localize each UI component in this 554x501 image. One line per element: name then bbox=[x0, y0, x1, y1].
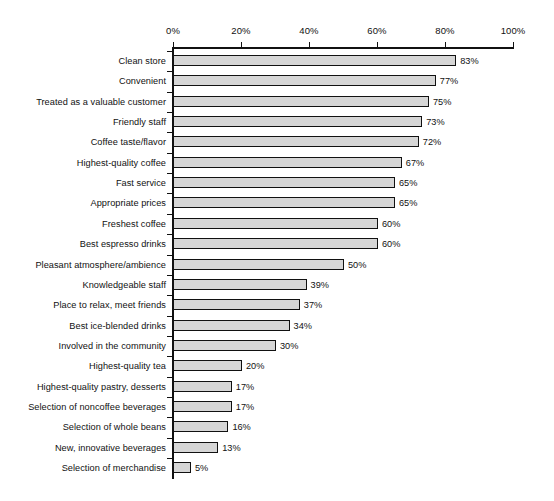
bar-category-label: Friendly staff bbox=[113, 116, 166, 128]
bar-row[interactable]: Selection of whole beans16% bbox=[0, 417, 554, 437]
bar-category-label: Treated as a valuable customer bbox=[36, 96, 166, 108]
y-axis-tick-mark bbox=[167, 295, 173, 296]
bar-category-label: Freshest coffee bbox=[102, 218, 166, 230]
bar-value-label: 17% bbox=[236, 401, 254, 413]
bar[interactable] bbox=[174, 157, 402, 168]
y-axis-tick-mark bbox=[167, 336, 173, 337]
bar-category-label: Fast service bbox=[116, 177, 166, 189]
y-axis-tick-mark bbox=[167, 132, 173, 133]
y-axis-tick-mark bbox=[167, 275, 173, 276]
bar-row[interactable]: Freshest coffee60% bbox=[0, 214, 554, 234]
y-axis-tick-mark bbox=[167, 255, 173, 256]
bar-value-label: 50% bbox=[348, 259, 366, 271]
y-axis-tick-mark bbox=[167, 51, 173, 52]
bar-row[interactable]: Clean store83% bbox=[0, 51, 554, 71]
bar-value-label: 72% bbox=[423, 136, 441, 148]
y-axis-tick-mark bbox=[167, 71, 173, 72]
bar-row[interactable]: Convenient77% bbox=[0, 71, 554, 91]
bar-category-label: Involved in the community bbox=[59, 340, 166, 352]
bar-row[interactable]: Friendly staff73% bbox=[0, 112, 554, 132]
bar[interactable] bbox=[174, 442, 218, 453]
bar-category-label: Coffee taste/flavor bbox=[91, 136, 166, 148]
bar[interactable] bbox=[174, 197, 395, 208]
bar-category-label: Convenient bbox=[119, 75, 166, 87]
bar-value-label: 83% bbox=[460, 55, 478, 67]
y-axis-tick-mark bbox=[167, 153, 173, 154]
bar[interactable] bbox=[174, 360, 242, 371]
bar[interactable] bbox=[174, 177, 395, 188]
bar[interactable] bbox=[174, 238, 378, 249]
bar-value-label: 16% bbox=[232, 421, 250, 433]
y-axis-tick-mark bbox=[167, 92, 173, 93]
bar-value-label: 5% bbox=[195, 462, 208, 474]
bar-row[interactable]: Knowledgeable staff39% bbox=[0, 275, 554, 295]
bar-value-label: 37% bbox=[304, 299, 322, 311]
bar[interactable] bbox=[174, 299, 300, 310]
bar[interactable] bbox=[174, 401, 232, 412]
bar[interactable] bbox=[174, 75, 436, 86]
bar-value-label: 20% bbox=[246, 360, 264, 372]
bar-row[interactable]: Treated as a valuable customer75% bbox=[0, 92, 554, 112]
bar-value-label: 75% bbox=[433, 96, 451, 108]
y-axis-tick-mark bbox=[167, 193, 173, 194]
bar[interactable] bbox=[174, 96, 429, 107]
bar-row[interactable]: Best espresso drinks60% bbox=[0, 234, 554, 254]
bar[interactable] bbox=[174, 259, 344, 270]
bar-row[interactable]: New, innovative beverages13% bbox=[0, 438, 554, 458]
bar-row[interactable]: Place to relax, meet friends37% bbox=[0, 295, 554, 315]
y-axis-tick-mark bbox=[167, 417, 173, 418]
bar-category-label: Pleasant atmosphere/ambience bbox=[35, 259, 166, 271]
y-axis-tick-mark bbox=[167, 397, 173, 398]
bar-value-label: 67% bbox=[406, 157, 424, 169]
bar[interactable] bbox=[174, 279, 307, 290]
bar-row[interactable]: Selection of merchandise5% bbox=[0, 458, 554, 478]
bar[interactable] bbox=[174, 421, 228, 432]
bar-row[interactable]: Coffee taste/flavor72% bbox=[0, 132, 554, 152]
bar-row[interactable]: Best ice-blended drinks34% bbox=[0, 316, 554, 336]
bar[interactable] bbox=[174, 136, 419, 147]
y-axis-tick-mark bbox=[167, 377, 173, 378]
bar-category-label: Selection of whole beans bbox=[63, 421, 166, 433]
y-axis-tick-mark bbox=[167, 234, 173, 235]
bar-value-label: 39% bbox=[311, 279, 329, 291]
bar-category-label: Best espresso drinks bbox=[80, 238, 166, 250]
bar-row[interactable]: Selection of noncoffee beverages17% bbox=[0, 397, 554, 417]
bar-row[interactable]: Highest-quality coffee67% bbox=[0, 153, 554, 173]
bar-category-label: Appropriate prices bbox=[91, 197, 166, 209]
bar-value-label: 73% bbox=[426, 116, 444, 128]
bar-value-label: 65% bbox=[399, 177, 417, 189]
y-axis-tick-mark bbox=[167, 316, 173, 317]
bar[interactable] bbox=[174, 340, 276, 351]
bar-category-label: Knowledgeable staff bbox=[82, 279, 166, 291]
bar-value-label: 65% bbox=[399, 197, 417, 209]
bar-category-label: Selection of noncoffee beverages bbox=[28, 401, 166, 413]
bar-value-label: 13% bbox=[222, 442, 240, 454]
y-axis-tick-mark bbox=[167, 438, 173, 439]
bar[interactable] bbox=[174, 462, 191, 473]
bar-category-label: Highest-quality tea bbox=[89, 360, 166, 372]
bar-category-label: Highest-quality pastry, desserts bbox=[37, 381, 166, 393]
bar-category-label: Place to relax, meet friends bbox=[53, 299, 166, 311]
bar-row[interactable]: Involved in the community30% bbox=[0, 336, 554, 356]
bar[interactable] bbox=[174, 55, 456, 66]
bar-value-label: 60% bbox=[382, 238, 400, 250]
bar-rows: Clean store83%Convenient77%Treated as a … bbox=[0, 0, 554, 501]
bar-row[interactable]: Appropriate prices65% bbox=[0, 193, 554, 213]
bar[interactable] bbox=[174, 116, 422, 127]
bar-row[interactable]: Pleasant atmosphere/ambience50% bbox=[0, 255, 554, 275]
bar[interactable] bbox=[174, 320, 290, 331]
bar[interactable] bbox=[174, 218, 378, 229]
y-axis-tick-mark bbox=[167, 356, 173, 357]
bar[interactable] bbox=[174, 381, 232, 392]
bar-value-label: 77% bbox=[440, 75, 458, 87]
bar-row[interactable]: Highest-quality pastry, desserts17% bbox=[0, 377, 554, 397]
bar-category-label: Highest-quality coffee bbox=[77, 157, 166, 169]
bar-row[interactable]: Highest-quality tea20% bbox=[0, 356, 554, 376]
bar-value-label: 17% bbox=[236, 381, 254, 393]
bar-category-label: Selection of merchandise bbox=[62, 462, 166, 474]
y-axis-tick-mark bbox=[167, 112, 173, 113]
bar-row[interactable]: Fast service65% bbox=[0, 173, 554, 193]
bar-value-label: 30% bbox=[280, 340, 298, 352]
bar-chart: 0%20%40%60%80%100% Clean store83%Conveni… bbox=[0, 0, 554, 501]
bar-category-label: Best ice-blended drinks bbox=[69, 320, 166, 332]
